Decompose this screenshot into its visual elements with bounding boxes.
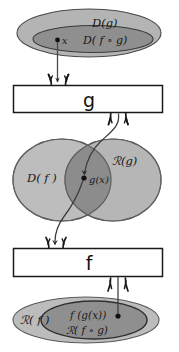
point-x-dot [55,38,60,43]
label-range-g: ℛ(g) [112,154,137,168]
diagram-canvas: D(g) D( f ∘ g) x g D( f ) ℛ(g) g(x) f ℛ(… [0,0,179,352]
label-g-box: g [83,89,95,111]
label-domain-fog: D( f ∘ g) [82,34,127,47]
label-point-gx: g(x) [89,174,109,185]
composition-diagram: D(g) D( f ∘ g) x g D( f ) ℛ(g) g(x) f ℛ(… [0,0,179,352]
label-fgx: f (g(x)) [69,309,106,321]
label-domain-g: D(g) [91,16,118,30]
point-gx-dot [81,175,86,180]
label-range-fog: ℛ( f ∘ g) [66,324,108,336]
point-fgx-dot [115,313,120,318]
label-point-x: x [62,35,68,46]
label-domain-f: D( f ) [26,171,57,185]
label-range-f: ℛ( f ) [20,313,50,327]
